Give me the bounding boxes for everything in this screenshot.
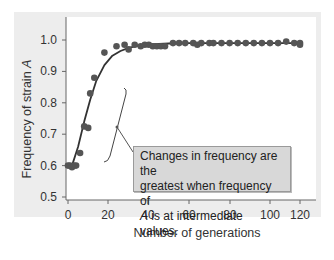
data-point: [176, 40, 183, 47]
annotation-callout: Changes in frequency are the greatest wh…: [133, 146, 291, 192]
y-axis-label: Frequency of strain A: [20, 39, 34, 199]
data-point: [113, 43, 120, 50]
data-point: [87, 90, 94, 97]
data-point: [131, 41, 138, 48]
data-point: [73, 162, 80, 169]
callout-line-3: A is at intermediate values.: [140, 209, 284, 239]
y-axis-label-prefix: Frequency of strain: [20, 68, 34, 178]
callout-connector-line: [117, 127, 133, 152]
data-point: [234, 40, 241, 47]
callout-line-1: Changes in frequency are the: [140, 149, 284, 179]
data-point: [243, 40, 250, 47]
data-point: [182, 40, 189, 47]
y-axis-label-italic: A: [20, 60, 34, 68]
callout-italic-a: A: [140, 209, 148, 223]
data-point: [198, 40, 205, 47]
data-point: [170, 40, 177, 47]
callout-line-2: greatest when frequency of: [140, 179, 284, 209]
data-point: [210, 40, 217, 47]
data-point: [291, 40, 298, 47]
data-point: [125, 46, 132, 53]
data-point: [77, 150, 84, 157]
x-tick-label: 120: [285, 208, 315, 222]
data-point: [259, 40, 266, 47]
data-point: [101, 49, 108, 56]
x-tick-label: 0: [53, 208, 83, 222]
data-point: [85, 125, 92, 132]
data-point: [162, 43, 169, 50]
callout-connector-dot: [116, 126, 119, 129]
data-point: [226, 40, 233, 47]
data-point: [218, 40, 225, 47]
data-point: [267, 40, 274, 47]
data-point: [275, 40, 282, 47]
data-point: [297, 41, 304, 48]
data-point: [283, 38, 290, 45]
x-tick-label: 20: [93, 208, 123, 222]
bracket-shape: [104, 88, 126, 162]
data-point: [251, 40, 258, 47]
data-point: [91, 74, 98, 81]
